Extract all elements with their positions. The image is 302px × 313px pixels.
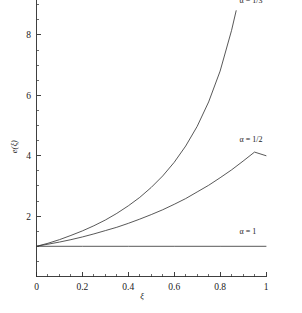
x-tick-label: 0.4 bbox=[122, 282, 134, 292]
curve--1-3 bbox=[37, 11, 237, 247]
curve-label: α = 1/3 bbox=[240, 0, 263, 5]
x-tick-label: 0.8 bbox=[214, 282, 226, 292]
x-tick-label: 0.6 bbox=[168, 282, 180, 292]
curve-annotations: α = 1/3α = 1/2α = 1 bbox=[240, 0, 263, 236]
y-axis-tick-labels: 2468 bbox=[26, 30, 31, 221]
x-tick-label: 0 bbox=[34, 282, 39, 292]
y-tick-label: 4 bbox=[26, 151, 31, 161]
x-axis-title: ξ bbox=[140, 291, 144, 301]
y-axis-group: 2468 e(ξ) bbox=[9, 0, 41, 276]
y-tick-label: 6 bbox=[26, 91, 31, 101]
y-tick-label: 2 bbox=[26, 212, 31, 222]
y-axis-title: e(ξ) bbox=[9, 140, 19, 153]
x-tick-label: 0.2 bbox=[76, 282, 88, 292]
data-curves bbox=[37, 11, 267, 247]
plot-canvas: 2468 e(ξ) 00.20.40.60.81 ξ α = 1/3α = 1/… bbox=[0, 0, 302, 313]
curve-label: α = 1 bbox=[240, 227, 257, 236]
curve-label: α = 1/2 bbox=[240, 135, 263, 144]
curve--1-2 bbox=[37, 152, 267, 246]
chart-figure: 2468 e(ξ) 00.20.40.60.81 ξ α = 1/3α = 1/… bbox=[0, 0, 302, 313]
x-axis-tick-labels: 00.20.40.60.81 bbox=[34, 282, 269, 292]
x-axis-group: 00.20.40.60.81 ξ bbox=[34, 272, 269, 300]
y-tick-label: 8 bbox=[26, 30, 31, 40]
x-tick-label: 1 bbox=[264, 282, 269, 292]
